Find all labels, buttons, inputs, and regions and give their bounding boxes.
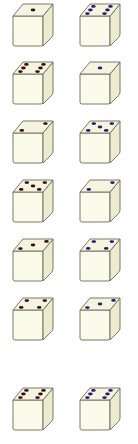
die-1-icon (11, 2, 57, 48)
die-right-row-3: 5 (78, 119, 124, 165)
die-left-row-7: 6 (11, 386, 57, 432)
die-6-icon (11, 60, 57, 106)
die-4-icon (78, 237, 124, 283)
die-right-row-7: 6 (78, 386, 124, 432)
die-left-row-2: 6 (11, 60, 57, 106)
die-1-icon (78, 60, 124, 106)
die-5-icon (11, 178, 57, 224)
die-2-icon (78, 178, 124, 224)
die-right-row-2: 1 (78, 60, 124, 106)
die-4-icon (11, 296, 57, 342)
die-right-row-6: 3 (78, 296, 124, 342)
die-3-icon (78, 296, 124, 342)
die-2-icon (11, 119, 57, 165)
die-left-row-3: 2 (11, 119, 57, 165)
die-5-icon (78, 119, 124, 165)
die-6-icon (78, 2, 124, 48)
die-right-row-1: 6 (78, 2, 124, 48)
die-right-row-5: 4 (78, 237, 124, 283)
die-3-icon (11, 237, 57, 283)
die-6-icon (11, 386, 57, 432)
die-6-icon (78, 386, 124, 432)
die-left-row-5: 3 (11, 237, 57, 283)
die-left-row-6: 4 (11, 296, 57, 342)
die-left-row-1: 1 (11, 2, 57, 48)
die-left-row-4: 5 (11, 178, 57, 224)
die-right-row-4: 2 (78, 178, 124, 224)
